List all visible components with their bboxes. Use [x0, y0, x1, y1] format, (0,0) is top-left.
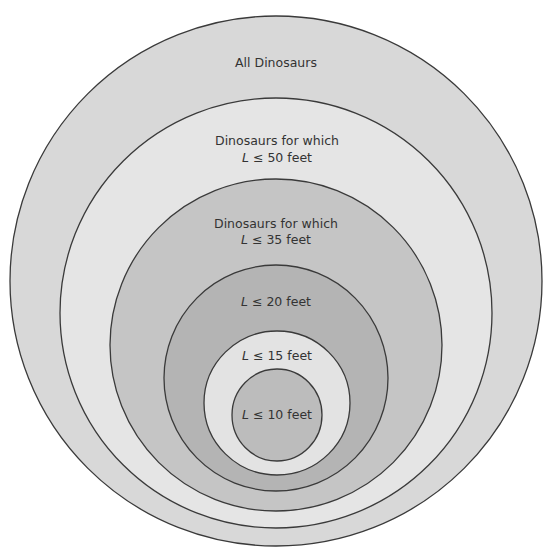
nested-dinosaur-diagram: All Dinosaurs Dinosaurs for which L ≤ 50… [0, 0, 552, 560]
label-le-10: L ≤ 10 feet [242, 407, 312, 422]
label-le-20: L ≤ 20 feet [241, 294, 311, 309]
label-le-20-condition: ≤ 20 feet [248, 294, 311, 309]
label-le-10-condition: ≤ 10 feet [249, 407, 312, 422]
label-le-35-line1: Dinosaurs for which [214, 216, 338, 231]
label-le-50-line2: L ≤ 50 feet [242, 150, 312, 165]
variable-L: L [241, 232, 248, 247]
label-le-15-condition: ≤ 15 feet [249, 348, 312, 363]
variable-L: L [241, 294, 248, 309]
label-le-50-line1: Dinosaurs for which [215, 133, 339, 148]
label-le-35-line2: L ≤ 35 feet [241, 232, 311, 247]
variable-L: L [242, 407, 249, 422]
label-le-50-condition: ≤ 50 feet [249, 150, 312, 165]
label-le-35-condition: ≤ 35 feet [248, 232, 311, 247]
variable-L: L [242, 348, 249, 363]
label-le-15: L ≤ 15 feet [242, 348, 312, 363]
variable-L: L [242, 150, 249, 165]
label-all-dinosaurs: All Dinosaurs [235, 55, 317, 70]
